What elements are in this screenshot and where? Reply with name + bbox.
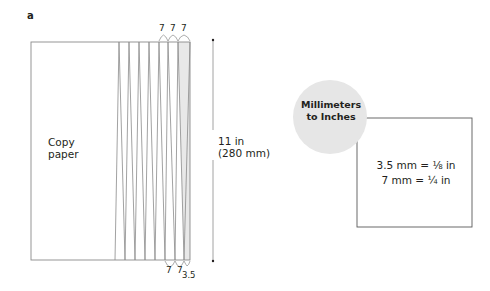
top-dim-3: 7	[181, 23, 187, 33]
shaded-strip	[178, 42, 190, 260]
conversion-line-2: 7 mm = ¼ in	[358, 173, 474, 188]
bottom-dim-3: 3.5	[182, 270, 196, 280]
panel-label: a	[27, 10, 34, 22]
paper-label: Copy paper	[48, 136, 79, 160]
conversion-title: Millimeters to Inches	[296, 99, 366, 123]
bottom-dim-1: 7	[166, 265, 172, 275]
top-dimension-brackets	[159, 35, 190, 41]
top-dim-1: 7	[159, 23, 165, 33]
fold-lines	[115, 42, 190, 260]
conversion-line-1: 3.5 mm = ⅛ in	[358, 158, 474, 173]
top-dim-2: 7	[170, 23, 176, 33]
conversion-values: 3.5 mm = ⅛ in 7 mm = ¼ in	[358, 158, 474, 188]
height-label: 11 in (280 mm)	[218, 135, 270, 159]
